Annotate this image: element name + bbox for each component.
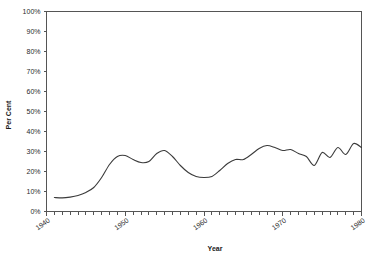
chart-container: 0%10%20%30%40%50%60%70%80%90%100% 194019… bbox=[0, 0, 372, 259]
y-axis-title: Per Cent bbox=[5, 100, 12, 129]
series-group bbox=[54, 143, 361, 198]
x-tick-label: 1950 bbox=[113, 217, 130, 232]
line-chart: 0%10%20%30%40%50%60%70%80%90%100% 194019… bbox=[0, 0, 372, 259]
y-tick-label: 0% bbox=[30, 208, 40, 215]
y-tick-label: 10% bbox=[26, 188, 40, 195]
y-tick-label: 50% bbox=[26, 108, 40, 115]
x-tick-label: 1940 bbox=[34, 217, 51, 232]
y-tick-label: 100% bbox=[23, 8, 41, 15]
x-tick-label: 1970 bbox=[271, 217, 288, 232]
y-tick-label: 40% bbox=[26, 128, 40, 135]
y-axis: 0%10%20%30%40%50%60%70%80%90%100% bbox=[23, 8, 47, 215]
y-tick-label: 90% bbox=[26, 28, 40, 35]
x-axis-title: Year bbox=[208, 245, 223, 252]
plot-frame bbox=[47, 12, 362, 212]
x-tick-label: 1980 bbox=[349, 217, 366, 232]
y-tick-label: 80% bbox=[26, 48, 40, 55]
y-tick-label: 30% bbox=[26, 148, 40, 155]
data-series-line bbox=[54, 143, 361, 198]
x-axis: 19401950196019701980 bbox=[34, 212, 366, 232]
y-tick-label: 60% bbox=[26, 88, 40, 95]
y-tick-label: 20% bbox=[26, 168, 40, 175]
y-tick-label: 70% bbox=[26, 68, 40, 75]
x-tick-label: 1960 bbox=[192, 217, 209, 232]
